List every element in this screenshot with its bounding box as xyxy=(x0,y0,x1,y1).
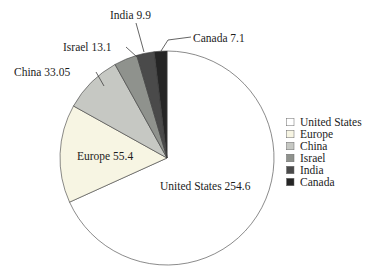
callout-label-china: China 33.05 xyxy=(14,66,70,78)
leader-line-india xyxy=(136,23,144,52)
legend-swatch-india xyxy=(287,166,295,174)
leader-line-israel xyxy=(126,47,137,57)
callout-label-united-states: United States 254.6 xyxy=(160,180,251,192)
legend-swatch-china xyxy=(287,142,295,150)
callout-label-europe: Europe 55.4 xyxy=(77,150,133,163)
legend-swatch-israel xyxy=(287,154,295,162)
pie-chart-figure: United States 254.6Europe 55.4China 33.0… xyxy=(0,0,379,280)
legend-swatch-canada xyxy=(287,178,295,186)
leader-line-canada xyxy=(161,37,191,51)
legend-label-israel: Israel xyxy=(300,152,326,164)
callout-label-india: India 9.9 xyxy=(110,9,151,21)
legend-swatch-united-states xyxy=(287,118,295,126)
legend-label-china: China xyxy=(300,140,327,152)
callout-label-canada: Canada 7.1 xyxy=(193,32,245,44)
callout-label-israel: Israel 13.1 xyxy=(63,41,112,53)
legend-label-canada: Canada xyxy=(300,176,334,188)
pie-chart: United States 254.6Europe 55.4China 33.0… xyxy=(0,0,379,280)
legend-swatch-europe xyxy=(287,130,295,138)
legend-label-united-states: United States xyxy=(300,116,362,128)
legend-label-india: India xyxy=(300,164,324,176)
